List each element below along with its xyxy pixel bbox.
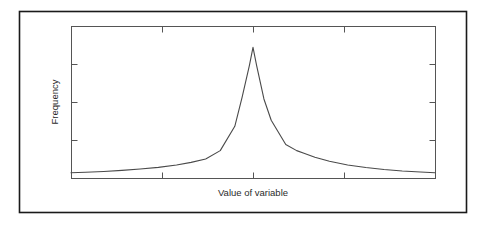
y-axis-title: Frequency	[49, 79, 60, 124]
chart-canvas: Value of variable Frequency	[0, 0, 481, 226]
x-axis-title: Value of variable	[218, 187, 288, 198]
figure-root: Value of variable Frequency	[0, 0, 481, 226]
